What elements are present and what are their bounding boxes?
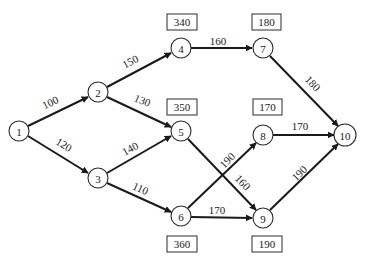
node-label-10: 10 — [340, 130, 352, 142]
edge-6-9 — [191, 217, 252, 218]
edge-label-1-2: 100 — [40, 93, 61, 111]
node-8: 8 — [253, 125, 273, 145]
value-box-label-9: 190 — [259, 238, 276, 250]
edge-label-4-7: 160 — [210, 35, 227, 47]
edge-2-4 — [107, 53, 171, 87]
edge-label-8-10: 170 — [292, 120, 309, 132]
node-10: 10 — [334, 124, 356, 146]
node-label-8: 8 — [260, 130, 266, 142]
edge-label-2-4: 150 — [120, 52, 141, 70]
node-9: 9 — [253, 208, 273, 228]
nodes: 1 2 3 4 5 6 7 8 — [9, 38, 356, 228]
network-diagram: 100 120 150 130 140 110 160 160 190 170 … — [0, 0, 366, 262]
node-4: 4 — [171, 38, 191, 58]
edge-3-5 — [107, 136, 171, 173]
value-box-node-5: 350 — [167, 99, 197, 115]
value-box-node-9: 190 — [252, 236, 282, 252]
edge-label-1-3: 120 — [54, 135, 75, 154]
value-box-label-8: 170 — [259, 101, 276, 113]
value-box-label-7: 180 — [258, 16, 275, 28]
node-label-1: 1 — [16, 126, 22, 138]
node-3: 3 — [88, 168, 108, 188]
value-box-label-6: 360 — [174, 238, 191, 250]
node-7: 7 — [253, 38, 273, 58]
edge-9-10 — [270, 144, 338, 210]
edge-label-6-8: 190 — [217, 150, 237, 171]
node-label-7: 7 — [260, 43, 266, 55]
value-box-node-6: 360 — [167, 236, 197, 252]
node-6: 6 — [171, 206, 191, 226]
edge-label-7-10: 180 — [303, 73, 323, 94]
node-1: 1 — [9, 121, 29, 141]
value-box-label-4: 340 — [174, 16, 191, 28]
edge-label-9-10: 190 — [289, 163, 310, 184]
node-label-6: 6 — [178, 211, 184, 223]
value-box-node-4: 340 — [167, 14, 197, 30]
node-label-3: 3 — [95, 173, 101, 185]
node-2: 2 — [88, 82, 108, 102]
node-label-2: 2 — [95, 87, 101, 99]
value-box-node-8: 170 — [253, 99, 282, 115]
node-5: 5 — [171, 121, 191, 141]
value-box-label-5: 350 — [174, 101, 191, 113]
edge-label-6-9: 170 — [209, 204, 226, 216]
node-label-5: 5 — [178, 126, 184, 138]
node-label-9: 9 — [260, 213, 266, 225]
node-label-4: 4 — [178, 43, 184, 55]
edge-label-2-5: 130 — [133, 92, 153, 109]
value-box-node-7: 180 — [252, 14, 281, 30]
